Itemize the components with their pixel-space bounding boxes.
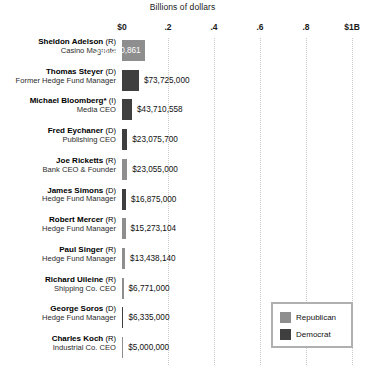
bar-track: $16,875,000 xyxy=(122,189,352,210)
donor-party: (R) xyxy=(105,275,116,284)
donor-role: Hedge Fund Manager xyxy=(0,195,116,204)
bar[interactable] xyxy=(122,307,123,328)
legend-swatch-democrat xyxy=(280,329,291,340)
bar[interactable] xyxy=(122,248,125,269)
x-tick-label: .2 xyxy=(164,22,171,32)
bar-row: Michael Bloomberg* (I)Media CEO$43,710,5… xyxy=(0,97,365,127)
bar[interactable] xyxy=(122,218,126,239)
bar-row-label: Charles Koch (R)Industrial Co. CEO xyxy=(0,335,116,352)
bar-row: Robert Mercer (R)Hedge Fund Manager$15,2… xyxy=(0,216,365,246)
bar[interactable] xyxy=(122,189,126,210)
donor-party: (R) xyxy=(105,245,116,254)
bar[interactable] xyxy=(122,70,139,91)
legend-label-democrat: Democrat xyxy=(296,330,331,339)
donor-role: Hedge Fund Manager xyxy=(0,225,116,234)
bar[interactable] xyxy=(122,337,123,358)
donor-role: Bank CEO & Founder xyxy=(0,166,116,175)
bar-value-label: $13,438,140 xyxy=(130,248,176,269)
bar-track: $73,725,000 xyxy=(122,70,352,91)
donor-role: Hedge Fund Manager xyxy=(0,314,116,323)
donor-party: (R) xyxy=(105,334,116,343)
bar-row-label: Richard Uileine (R)Shipping Co. CEO xyxy=(0,276,116,293)
bar-row: James Simons (D)Hedge Fund Manager$16,87… xyxy=(0,187,365,217)
bar-row-label: Paul Singer (R)Hedge Fund Manager xyxy=(0,246,116,263)
bar[interactable] xyxy=(122,99,132,120)
donor-role: Shipping Co. CEO xyxy=(0,285,116,294)
bar-row-label: Fred Eychaner (D)Publishing CEO xyxy=(0,127,116,144)
x-tick-label: .6 xyxy=(256,22,263,32)
donor-party: (D) xyxy=(105,186,116,195)
bar-track: $23,075,700 xyxy=(122,129,352,150)
donor-party: (D) xyxy=(105,304,116,313)
bar-row: Fred Eychaner (D)Publishing CEO$23,075,7… xyxy=(0,127,365,157)
bar-row: Sheldon Adelson (R)Casino Magnate$98,320… xyxy=(0,38,365,68)
bar-track: $23,055,000 xyxy=(122,159,352,180)
bar-value-label: $98,320,861 xyxy=(95,40,141,61)
bar-value-label: $6,771,000 xyxy=(129,278,170,299)
x-tick-label: $1B xyxy=(344,22,360,32)
bar-track: $6,771,000 xyxy=(122,278,352,299)
donor-party: (I) xyxy=(109,96,116,105)
bar-track: $43,710,558 xyxy=(122,99,352,120)
donor-spending-bar-chart: Billions of dollars $0.2.4.6.8$1B Sheldo… xyxy=(0,0,365,373)
bar-value-label: $73,725,000 xyxy=(144,70,190,91)
donor-party: (D) xyxy=(105,67,116,76)
donor-role: Media CEO xyxy=(0,106,116,115)
donor-role: Industrial Co. CEO xyxy=(0,344,116,353)
bar[interactable] xyxy=(122,129,127,150)
donor-party: (R) xyxy=(105,156,116,165)
bar-value-label: $23,075,700 xyxy=(132,129,178,150)
x-axis-tick-labels: $0.2.4.6.8$1B xyxy=(0,22,365,34)
bar-row-label: Thomas Steyer (D)Former Hedge Fund Manag… xyxy=(0,68,116,85)
x-tick-label: .8 xyxy=(302,22,309,32)
legend-item-republican: Republican xyxy=(280,311,336,324)
legend-label-republican: Republican xyxy=(296,313,336,322)
donor-role: Publishing CEO xyxy=(0,136,116,145)
bar[interactable] xyxy=(122,278,124,299)
bar-row-label: Michael Bloomberg* (I)Media CEO xyxy=(0,97,116,114)
bar-value-label: $15,273,104 xyxy=(131,218,177,239)
bar-track: $13,438,140 xyxy=(122,248,352,269)
bar-value-label: $23,055,000 xyxy=(132,159,178,180)
donor-role: Hedge Fund Manager xyxy=(0,255,116,264)
donor-role: Former Hedge Fund Manager xyxy=(0,77,116,86)
bar-value-label: $16,875,000 xyxy=(131,189,177,210)
bar-row: Thomas Steyer (D)Former Hedge Fund Manag… xyxy=(0,68,365,98)
bar-value-label: $43,710,558 xyxy=(137,99,183,120)
bar-row: Richard Uileine (R)Shipping Co. CEO$6,77… xyxy=(0,276,365,306)
bar-row: Paul Singer (R)Hedge Fund Manager$13,438… xyxy=(0,246,365,276)
x-tick-label: .4 xyxy=(210,22,217,32)
legend-item-democrat: Democrat xyxy=(280,328,331,341)
bar-track: $98,320,861 xyxy=(122,40,352,61)
bar[interactable] xyxy=(122,159,127,180)
x-tick-label: $0 xyxy=(117,22,126,32)
bar-row-label: George Soros (D)Hedge Fund Manager xyxy=(0,305,116,322)
bar-row: Joe Ricketts (R)Bank CEO & Founder$23,05… xyxy=(0,157,365,187)
axis-title: Billions of dollars xyxy=(0,2,365,12)
bar-value-label: $6,335,000 xyxy=(128,307,169,328)
legend-swatch-republican xyxy=(280,312,291,323)
donor-party: (R) xyxy=(105,215,116,224)
bar-track: $15,273,104 xyxy=(122,218,352,239)
bar-row-label: Robert Mercer (R)Hedge Fund Manager xyxy=(0,216,116,233)
bar-row-label: James Simons (D)Hedge Fund Manager xyxy=(0,187,116,204)
bar-value-label: $5,000,000 xyxy=(128,337,169,358)
legend: Republican Democrat xyxy=(271,302,353,348)
donor-party: (D) xyxy=(105,126,116,135)
bar-row-label: Joe Ricketts (R)Bank CEO & Founder xyxy=(0,157,116,174)
